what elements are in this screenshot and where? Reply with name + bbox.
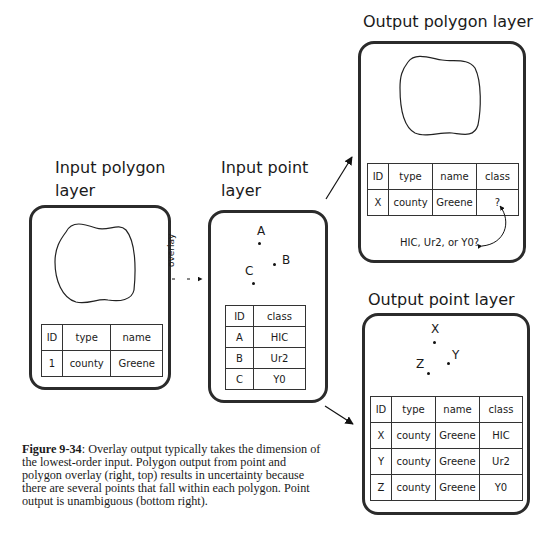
point-b (273, 263, 276, 266)
table-header-row: ID type name class (371, 397, 523, 423)
point-c (252, 282, 255, 285)
header-cell: type (63, 325, 111, 351)
output-point-title: Output point layer (368, 289, 515, 311)
table-cell: Ur2 (254, 348, 306, 369)
table-cell: county (63, 351, 111, 377)
ambiguity-annotation: HIC, Ur2, or Y0? (400, 237, 479, 248)
table-cell: Y0 (480, 475, 523, 501)
point-y (447, 362, 450, 365)
arrow-to-output-point (325, 406, 353, 424)
point-c-label: C (245, 264, 253, 278)
table-row: X county Greene HIC (371, 423, 523, 449)
header-cell: class (480, 397, 523, 423)
table-cell: Ur2 (480, 449, 523, 475)
header-cell: ID (226, 306, 254, 327)
table-cell: ? (477, 190, 519, 216)
table-row: A HIC (226, 327, 306, 348)
header-cell: class (477, 164, 519, 190)
header-cell: name (433, 164, 477, 190)
input-point-table: ID class A HIC B Ur2 C Y0 (225, 305, 306, 390)
header-cell: type (392, 397, 436, 423)
input-polygon-table: ID type name 1 county Greene (41, 324, 163, 377)
table-row: Z county Greene Y0 (371, 475, 523, 501)
header-cell: type (389, 164, 433, 190)
point-z-label: Z (416, 357, 424, 371)
header-cell: ID (42, 325, 63, 351)
table-row: B Ur2 (226, 348, 306, 369)
input-polygon-title-line1: Input polygon (55, 157, 165, 179)
table-cell: HIC (254, 327, 306, 348)
table-header-row: ID class (226, 306, 306, 327)
output-polygon-table: ID type name class X county Greene ? (367, 163, 519, 216)
output-polygon-panel (358, 41, 526, 263)
table-cell: Greene (436, 423, 480, 449)
table-row: Y county Greene Ur2 (371, 449, 523, 475)
point-z (427, 372, 430, 375)
table-cell: county (392, 449, 436, 475)
input-point-title-line1: Input point (221, 157, 308, 179)
point-a (258, 242, 261, 245)
header-cell: ID (371, 397, 392, 423)
table-cell: county (389, 190, 433, 216)
point-y-label: Y (452, 348, 459, 362)
input-point-title-line2: layer (221, 180, 261, 202)
point-x (433, 341, 436, 344)
table-cell: B (226, 348, 254, 369)
table-cell: Z (371, 475, 392, 501)
table-cell: C (226, 369, 254, 390)
table-cell: Greene (111, 351, 163, 377)
arrow-to-output-polygon (326, 157, 352, 199)
table-cell: HIC (480, 423, 523, 449)
point-b-label: B (282, 253, 290, 267)
table-cell: Y0 (254, 369, 306, 390)
input-polygon-title-line2: layer (55, 180, 95, 202)
table-cell: Y (371, 449, 392, 475)
table-header-row: ID type name class (368, 164, 519, 190)
point-x-label: X (431, 322, 439, 336)
table-cell: Greene (436, 449, 480, 475)
output-point-table: ID type name class X county Greene HIC Y… (370, 396, 523, 501)
table-row: 1 county Greene (42, 351, 163, 377)
point-a-label: A (257, 224, 265, 238)
figure-label: Figure 9-34 (22, 442, 82, 456)
table-cell: A (226, 327, 254, 348)
table-cell: county (392, 423, 436, 449)
table-cell: Greene (433, 190, 477, 216)
header-cell: name (436, 397, 480, 423)
table-row: X county Greene ? (368, 190, 519, 216)
overlay-label: overlay (166, 234, 176, 267)
table-row: C Y0 (226, 369, 306, 390)
table-cell: Greene (436, 475, 480, 501)
table-header-row: ID type name (42, 325, 163, 351)
header-cell: ID (368, 164, 389, 190)
output-polygon-title: Output polygon layer (363, 11, 533, 33)
table-cell: X (368, 190, 389, 216)
table-cell: 1 (42, 351, 63, 377)
table-cell: X (371, 423, 392, 449)
header-cell: class (254, 306, 306, 327)
header-cell: name (111, 325, 163, 351)
table-cell: county (392, 475, 436, 501)
figure-caption: Figure 9-34: Overlay output typically ta… (22, 443, 322, 508)
